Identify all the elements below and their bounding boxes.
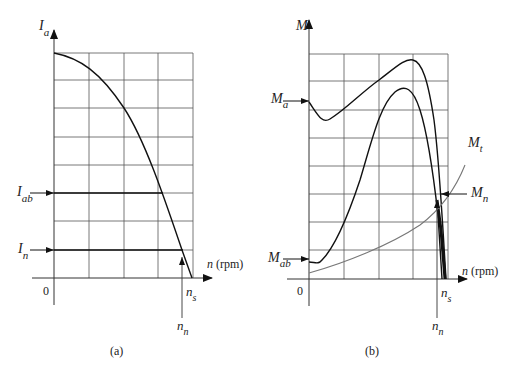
panel-a: Ia Iab In n (rpm) 0 ns nn (a) bbox=[16, 18, 243, 358]
origin-label-a: 0 bbox=[43, 284, 49, 298]
caption-b: (b) bbox=[365, 344, 379, 358]
m-a-label: Ma bbox=[270, 91, 289, 110]
y-axis-label-b: M bbox=[295, 18, 309, 33]
caption-a: (a) bbox=[110, 344, 123, 358]
y-axis-label-a: Ia bbox=[38, 18, 50, 38]
m-n-label: Mn bbox=[470, 185, 489, 204]
i-n-label: In bbox=[17, 241, 29, 261]
x-axis-label-a: n (rpm) bbox=[207, 257, 243, 271]
x-axis-label-b: n (rpm) bbox=[462, 264, 498, 278]
n-n-label-a: nn bbox=[177, 318, 189, 337]
i-ab-label: Iab bbox=[16, 184, 33, 204]
current-curve bbox=[54, 53, 192, 278]
grid-a bbox=[54, 53, 193, 278]
torque-curve-upper bbox=[309, 60, 446, 279]
n-n-label-b: nn bbox=[432, 318, 444, 337]
n-s-label-b: ns bbox=[441, 285, 452, 304]
origin-label-b: 0 bbox=[297, 284, 303, 298]
panel-b: M Ma Mab Mt Mn n (rpm) 0 ns nn (b) bbox=[267, 18, 498, 358]
grid-b bbox=[309, 54, 448, 279]
diagram-canvas: Ia Iab In n (rpm) 0 ns nn (a) bbox=[0, 0, 506, 372]
n-s-label-a: ns bbox=[186, 284, 197, 303]
m-ab-label: Mab bbox=[267, 250, 291, 269]
m-t-label: Mt bbox=[467, 135, 483, 154]
